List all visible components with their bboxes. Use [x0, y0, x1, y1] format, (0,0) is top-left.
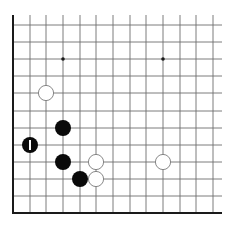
board-edges	[12, 15, 222, 214]
black-stone-icon	[72, 171, 88, 187]
grid-lines	[13, 15, 222, 213]
white-stone-icon	[38, 85, 53, 100]
move-marker-icon	[29, 140, 31, 150]
star-point-icon	[61, 57, 65, 61]
black-stone-icon	[55, 120, 71, 136]
black-stone-icon	[55, 154, 71, 170]
white-stone-icon	[88, 171, 103, 186]
white-stone-icon	[88, 154, 103, 169]
star-point-icon	[161, 57, 165, 61]
go-board	[0, 0, 235, 227]
white-stone-icon	[155, 154, 170, 169]
